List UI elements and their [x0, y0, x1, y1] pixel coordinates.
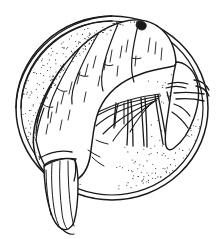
shrimp-on-plate-drawing: [0, 0, 219, 239]
shrimp-tail-fan: [44, 159, 78, 235]
illustration-canvas: Shrimp on a Round Plate Black and white …: [0, 0, 219, 239]
shrimp-carapace: [165, 62, 198, 150]
